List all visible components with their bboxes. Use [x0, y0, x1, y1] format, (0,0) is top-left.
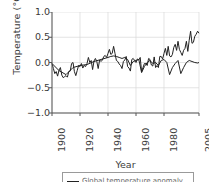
x-tick-label: 2005	[203, 128, 209, 152]
x-tick-label: 1900	[56, 128, 67, 152]
x-tick-label: 1960	[140, 128, 151, 152]
x-axis-tick-labels: 190019201940196019802005	[0, 0, 209, 182]
legend-line-swatch	[67, 181, 79, 182]
temperature-anomaly-figure: Temperature (°C) 1.00.50.0−0.5−1.0 19001…	[0, 0, 209, 182]
x-axis-label: Year	[52, 159, 199, 170]
legend-box: Global temperature anomaly	[62, 172, 194, 182]
x-tick-label: 1920	[84, 128, 95, 152]
x-tick-label: 1940	[112, 128, 123, 152]
x-tick-label: 1980	[168, 128, 179, 152]
legend-item: Global temperature anomaly	[63, 173, 193, 182]
legend-item-label: Global temperature anomaly	[82, 177, 183, 182]
